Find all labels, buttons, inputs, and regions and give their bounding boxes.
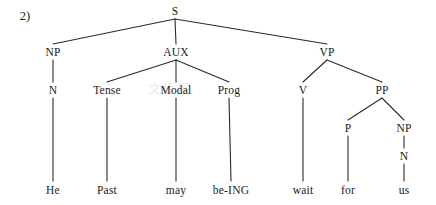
tree-edge-PP-P — [348, 98, 382, 120]
tree-edge-VP-V — [303, 60, 327, 82]
tree-node-pp: PP — [375, 84, 388, 96]
tree-leaf-for: for — [341, 184, 355, 196]
tree-node-tense: Tense — [93, 84, 121, 96]
tree-leaf-may: may — [166, 184, 186, 196]
tree-node-p: P — [345, 122, 352, 134]
tree-edge-Prog-w_being — [229, 98, 231, 181]
tree-node-s: S — [172, 5, 179, 17]
tree-edge-PP-NP2 — [382, 98, 404, 120]
tree-node-modal: Modal — [160, 84, 191, 96]
tree-node-n1: N — [49, 84, 58, 96]
tree-edges-canvas — [0, 0, 436, 205]
tree-leaf-us: us — [399, 184, 410, 196]
tree-leaf-wait: wait — [293, 184, 314, 196]
tree-node-v: V — [299, 84, 308, 96]
syntax-tree-figure: 文库网 2) SNPAUXVPNTenseModalProgVPPPNPNHeP… — [0, 0, 436, 205]
tree-node-aux: AUX — [163, 46, 189, 58]
tree-edge-VP-PP — [327, 60, 382, 82]
tree-edge-AUX-Tense — [107, 60, 176, 82]
tree-edge-S-VP — [175, 19, 327, 44]
tree-node-vp: VP — [319, 46, 334, 58]
tree-leaf-he: He — [46, 184, 60, 196]
tree-edge-S-NP1 — [53, 19, 175, 44]
tree-node-n2: N — [400, 150, 409, 162]
tree-node-prog: Prog — [218, 84, 241, 96]
tree-leaf-being: be-ING — [213, 184, 249, 196]
tree-edge-AUX-Prog — [176, 60, 229, 82]
tree-node-np1: NP — [45, 46, 60, 58]
tree-edge-S-AUX — [175, 19, 176, 44]
tree-node-np2: NP — [396, 122, 411, 134]
tree-leaf-past: Past — [97, 184, 117, 196]
